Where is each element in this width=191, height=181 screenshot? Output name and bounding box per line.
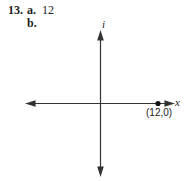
point-marker [155,101,160,106]
point-label: (12,0) [146,107,172,118]
horizontal-axis-label: x [175,96,180,108]
up-arrow-icon [98,32,103,40]
down-arrow-icon [98,167,103,175]
coordinate-plane [0,0,191,181]
vertical-axis-label: i [102,18,105,30]
right-arrow-icon [165,101,173,106]
left-arrow-icon [27,101,35,106]
